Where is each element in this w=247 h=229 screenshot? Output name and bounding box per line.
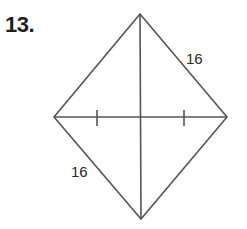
side-label-top-right: 16 <box>186 50 203 67</box>
side-label-bottom-left: 16 <box>71 163 88 180</box>
rhombus-diagram: 16 16 <box>0 0 247 229</box>
